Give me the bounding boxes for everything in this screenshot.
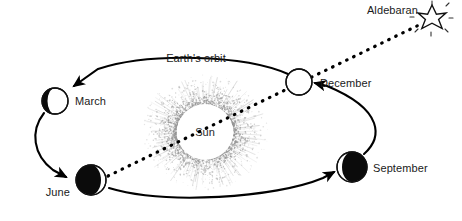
orbit-arc-march-to-june <box>35 113 66 177</box>
orbit-arc-september-to-december <box>315 83 375 154</box>
earth-position-june <box>76 165 106 195</box>
star-glyph <box>418 5 446 29</box>
orbit-arc-june-to-september <box>109 172 334 198</box>
sight-line-to-aldebaran <box>108 24 421 176</box>
earth-label-march: March <box>75 95 106 107</box>
earth-position-september <box>337 152 367 182</box>
earth-label-september: September <box>373 162 428 174</box>
orbit-label: Earth's orbit <box>166 52 226 64</box>
diagram-canvas: Sun Earth's orbit March <box>0 0 462 221</box>
earth-position-december <box>286 69 316 95</box>
earth-position-march <box>42 88 68 114</box>
earth-label-december: December <box>320 77 372 89</box>
aldebaran-label: Aldebaran <box>367 4 418 16</box>
earth-orbit-diagram: Sun Earth's orbit March <box>0 0 462 221</box>
earth-label-june: June <box>46 186 70 198</box>
